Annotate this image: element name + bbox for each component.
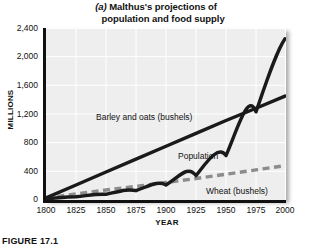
y-tick-label-400: 400: [2, 167, 38, 176]
y-tick-label-0: 0: [2, 195, 38, 204]
x-tick-label-1975: 1975: [241, 205, 271, 215]
series-label-population: Population: [178, 152, 218, 161]
x-tick-label-1800: 1800: [31, 205, 61, 215]
x-tick-label-1875: 1875: [121, 205, 151, 215]
figure-root: (a) Malthus's projections of population …: [0, 0, 312, 247]
figure-title-line-1: Malthus's projections of: [109, 1, 217, 12]
x-tick-label-1925: 1925: [181, 205, 211, 215]
x-tick-label-1850: 1850: [91, 205, 121, 215]
y-axis-title: MILLIONS: [6, 80, 15, 140]
panel-marker: (a): [95, 1, 106, 12]
figure-title-line-2: population and food supply: [0, 13, 312, 25]
x-tick-label-1825: 1825: [61, 205, 91, 215]
y-tick-label-2400: 2,400: [2, 24, 38, 33]
series-label-barley-and-oats: Barley and oats (bushels): [96, 113, 192, 122]
y-tick-label-2000: 2,000: [2, 52, 38, 61]
figure-caption: FIGURE 17.1: [2, 236, 58, 246]
series-label-wheat: Wheat (bushels): [206, 187, 268, 196]
x-tick-label-2000: 2000: [270, 205, 300, 215]
figure-title: (a) Malthus's projections of population …: [0, 1, 312, 24]
x-tick-label-1900: 1900: [151, 205, 181, 215]
x-axis-title: YEAR: [0, 218, 312, 227]
x-tick-label-1950: 1950: [211, 205, 241, 215]
y-axis-line: [43, 28, 46, 201]
x-axis-line: [43, 200, 286, 203]
